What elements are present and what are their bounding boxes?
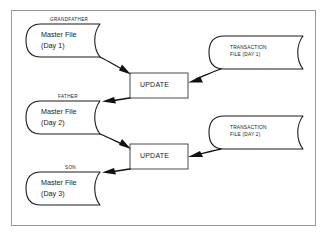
master-file-label-grandfather-line1: Master File [41, 31, 77, 39]
transaction-file-label-day1-line2: FILE (DAY 1) [230, 52, 260, 58]
update-box-2-label: UPDATE [140, 152, 169, 160]
diagram-canvas: GRANDFATHER Master File (Day 1) FATHER M… [0, 0, 329, 239]
transaction-file-label-day2-line2: FILE (DAY 2) [230, 132, 260, 138]
master-file-label-father-line2: (Day 2) [41, 119, 65, 127]
arrow-update2-to-son [102, 168, 130, 175]
master-file-label-son-line2: (Day 3) [41, 190, 65, 198]
update-box-1-label: UPDATE [140, 81, 169, 89]
arrow-transaction2-to-update2 [188, 149, 221, 157]
generation-label-father: FATHER [58, 94, 78, 99]
generation-label-grandfather: GRANDFATHER [50, 17, 88, 22]
arrow-update1-to-father [102, 97, 130, 104]
master-file-label-grandfather-line2: (Day 1) [41, 42, 65, 50]
arrow-grandfather-to-update1 [100, 57, 131, 75]
generation-label-son: SON [65, 165, 76, 170]
arrow-father-to-update2 [100, 134, 131, 149]
transaction-file-label-day2-line1: TRANSACTION [230, 125, 267, 131]
arrow-transaction1-to-update1 [188, 69, 221, 83]
transaction-file-label-day1-line1: TRANSACTION [230, 45, 267, 51]
master-file-label-father-line1: Master File [41, 108, 77, 116]
master-file-label-son-line1: Master File [41, 179, 77, 187]
